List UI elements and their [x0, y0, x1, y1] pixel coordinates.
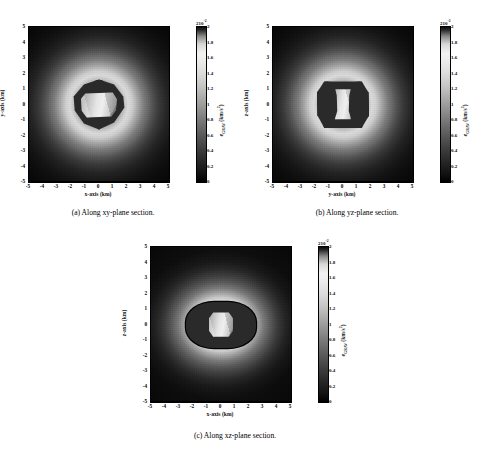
y-tick-label: 2	[139, 290, 147, 296]
colorbar-units-exponent: 2	[461, 106, 465, 108]
colorbar-tick-label: 0.8	[207, 117, 213, 122]
colorbar-exponent-b: 210-2	[440, 19, 451, 26]
y-tick-label: 5	[17, 23, 25, 29]
colorbar-units-close: )	[218, 104, 224, 106]
x-tick-label: -1	[326, 183, 330, 189]
colorbar-tick-label: 1.2	[207, 86, 213, 91]
body-core-bright	[81, 92, 117, 118]
y-tick-label: -4	[17, 163, 25, 169]
colorbar-tick-label: 1.6	[451, 55, 457, 60]
x-tick-label: 0	[219, 403, 222, 409]
y-tick-label: 0	[17, 101, 25, 107]
y-tick-label: 1	[139, 305, 147, 311]
y-tick-label: -2	[261, 132, 269, 138]
y-tick-label: 1	[17, 85, 25, 91]
colorbar-units-open: (km/s	[340, 328, 346, 341]
figure-panel-a: -5 -4 -3 -2 -1 0 1 2 3 4 5 5 4 3 2 1 0 -…	[0, 12, 240, 227]
heatmap-field-c	[151, 247, 291, 402]
body-core-bright	[208, 312, 234, 338]
colorbar-axis-title-c: eGRAV (km/s2)	[339, 324, 348, 356]
colorbar-tick-label: 1.4	[207, 70, 213, 75]
colorbar-tick-label: 0.4	[207, 148, 213, 153]
x-tick-label: -3	[298, 183, 302, 189]
x-tick-label: 4	[275, 403, 278, 409]
x-tick-label: 5	[289, 403, 292, 409]
x-axis-title: x-axis (km)	[85, 191, 112, 197]
colorbar-tick-label: 1.4	[329, 290, 335, 295]
colorbar-symbol-subscript: GRAV	[222, 123, 226, 134]
colorbar-exponent-power: -2	[448, 19, 451, 23]
x-tick-label: 0	[97, 183, 100, 189]
colorbar-b	[440, 26, 451, 183]
colorbar-tick-label: 0.4	[451, 148, 457, 153]
colorbar-c	[318, 246, 329, 403]
y-tick-label: 0	[261, 101, 269, 107]
colorbar-exponent-power: -2	[204, 19, 207, 23]
x-tick-label: 4	[153, 183, 156, 189]
x-tick-label: 3	[383, 183, 386, 189]
colorbar-axis-title-a: eGRAV (km/s2)	[217, 104, 226, 136]
heatmap-field-b	[273, 27, 413, 182]
x-tick-label: -3	[176, 403, 180, 409]
colorbar-tick-label: 0.2	[329, 383, 335, 388]
x-axis-line-b	[272, 181, 412, 182]
panel-caption-c: (c) Along xz-plane section.	[194, 431, 276, 440]
x-axis-title: x-axis (km)	[207, 411, 234, 417]
y-tick-label: -1	[139, 336, 147, 342]
x-tick-label: 1	[233, 403, 236, 409]
x-tick-label: -5	[26, 183, 30, 189]
x-tick-label: -5	[270, 183, 274, 189]
colorbar-tick-label: 0.6	[451, 132, 457, 137]
y-tick-label: 3	[139, 274, 147, 280]
colorbar-units-close: )	[462, 104, 468, 106]
figure-panel-b: -5 -4 -3 -2 -1 0 1 2 3 4 5 5 4 3 2 1 0 -…	[244, 12, 484, 227]
y-tick-label: -2	[17, 132, 25, 138]
y-axis-title: z-axis (km)	[121, 310, 127, 337]
x-tick-label: 3	[261, 403, 264, 409]
colorbar-tick-label: 0	[451, 179, 454, 184]
colorbar-tick-label: 0.2	[451, 163, 457, 168]
y-tick-label: -3	[261, 147, 269, 153]
colorbar-tick-label: 1.4	[451, 70, 457, 75]
x-axis-line-a	[28, 181, 168, 182]
y-tick-label: 5	[261, 23, 269, 29]
y-tick-label: 2	[261, 70, 269, 76]
heatmap-axes-a	[28, 26, 170, 183]
x-tick-label: 2	[125, 183, 128, 189]
x-axis-line-c	[150, 401, 290, 402]
y-tick-label: -1	[17, 116, 25, 122]
y-tick-label: 1	[261, 85, 269, 91]
panel-caption-b: (b) Along yz-plane section.	[316, 208, 399, 217]
y-tick-label: 0	[139, 321, 147, 327]
colorbar-tick-label: 1.8	[329, 259, 335, 264]
colorbar-tick-label: 1.2	[329, 306, 335, 311]
colorbar-symbol-subscript: GRAV	[466, 123, 470, 134]
colorbar-tick-label: 1	[451, 101, 454, 106]
colorbar-tick-label: 0.2	[207, 163, 213, 168]
body-core-facets	[208, 312, 234, 338]
x-tick-label: 1	[111, 183, 114, 189]
colorbar-units-open: (km/s	[218, 108, 224, 121]
x-tick-label: 2	[369, 183, 372, 189]
x-tick-label: -2	[190, 403, 194, 409]
colorbar-tick-label: 1	[329, 321, 332, 326]
y-tick-label: 4	[261, 39, 269, 45]
colorbar-axis-title-b: eGRAV (km/s2)	[461, 104, 470, 136]
y-tick-label: -4	[261, 163, 269, 169]
y-tick-label: 3	[17, 54, 25, 60]
y-tick-label: -1	[261, 116, 269, 122]
colorbar-tick-label: 0.8	[451, 117, 457, 122]
colorbar-tick-label: 2	[451, 24, 454, 29]
y-tick-label: 4	[139, 259, 147, 265]
y-tick-label: 3	[261, 54, 269, 60]
y-tick-label: -3	[139, 367, 147, 373]
x-tick-label: -4	[40, 183, 44, 189]
heatmap-axes-b	[272, 26, 414, 183]
colorbar-a	[196, 26, 207, 183]
colorbar-tick-label: 0.8	[329, 337, 335, 342]
colorbar-tick-label: 1.6	[207, 55, 213, 60]
colorbar-units-exponent: 2	[339, 326, 343, 328]
x-tick-label: 2	[247, 403, 250, 409]
panel-caption-a: (a) Along xy-plane section.	[72, 208, 155, 217]
y-tick-label: 5	[139, 243, 147, 249]
